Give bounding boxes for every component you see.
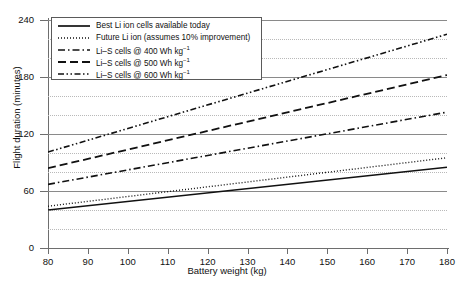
x-tick-label: 120 (188, 256, 228, 267)
legend-line-sample (57, 57, 91, 67)
legend-line-sample (57, 33, 91, 43)
x-tick-label: 180 (427, 256, 460, 267)
legend-line-sample (57, 69, 91, 79)
chart-title: using Li ion and Li–S batteries (0, 0, 454, 1)
chart-legend: Best Li ion cells available todayFuture … (51, 17, 262, 80)
x-tick (327, 248, 328, 254)
x-tick-label: 80 (28, 256, 68, 267)
x-tick (407, 248, 408, 254)
y-tick-label: 0 (0, 242, 34, 253)
x-tick (447, 248, 448, 254)
y-axis-label: Flight duration (minutes) (11, 48, 22, 188)
x-tick-label: 150 (307, 256, 347, 267)
x-tick-label: 170 (387, 256, 427, 267)
legend-item-label: Future Li ion (assumes 10% improvement) (96, 33, 250, 43)
x-tick (128, 248, 129, 254)
legend-item-label: Best Li ion cells available today (96, 21, 210, 31)
y-tick-label: 60 (0, 185, 34, 196)
x-tick-label: 130 (228, 256, 268, 267)
x-tick (48, 248, 49, 254)
x-tick-label: 100 (108, 256, 148, 267)
x-tick (88, 248, 89, 254)
y-tick (40, 248, 48, 249)
y-tick-label: 240 (0, 14, 34, 25)
legend-line-sample (57, 45, 91, 55)
legend-label-superscript: −1 (183, 45, 190, 51)
x-tick (208, 248, 209, 254)
chart-title-line2: using Li ion and Li–S batteries (0, 0, 454, 1)
legend-item-4: Li–S cells @ 600 Wh kg−1 (52, 68, 261, 80)
x-tick-label: 110 (148, 256, 188, 267)
x-tick (367, 248, 368, 254)
x-tick-label: 160 (347, 256, 387, 267)
legend-line-sample (57, 21, 91, 31)
legend-item-label: Li–S cells @ 600 Wh kg−1 (96, 67, 190, 81)
y-tick-label: 180 (0, 71, 34, 82)
legend-item-0: Best Li ion cells available today (52, 20, 261, 32)
series-line-1 (48, 158, 447, 206)
x-tick (287, 248, 288, 254)
y-tick (40, 134, 48, 135)
x-tick (248, 248, 249, 254)
y-tick (40, 20, 48, 21)
legend-label-superscript: −1 (183, 57, 190, 63)
y-tick (40, 77, 48, 78)
y-tick (40, 191, 48, 192)
series-line-3 (48, 75, 447, 168)
legend-label-superscript: −1 (183, 69, 190, 75)
x-tick (168, 248, 169, 254)
x-tick-label: 140 (267, 256, 307, 267)
y-tick-label: 120 (0, 128, 34, 139)
x-tick-label: 90 (68, 256, 108, 267)
